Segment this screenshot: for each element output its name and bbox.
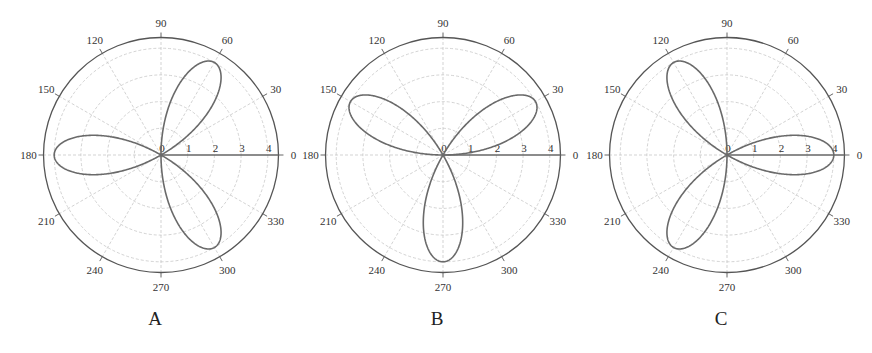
angle-tick <box>545 94 549 97</box>
angle-tick <box>263 94 267 97</box>
grid-spoke <box>59 96 161 155</box>
angle-label: 270 <box>435 281 452 293</box>
angle-label: 90 <box>438 17 450 29</box>
angle-label: 240 <box>653 264 670 276</box>
angle-tick <box>263 214 267 217</box>
angle-label: 210 <box>38 215 55 227</box>
grid-spoke <box>727 53 786 155</box>
grid-spoke <box>102 53 161 155</box>
radial-tick-label: 2 <box>213 142 219 154</box>
polar-figure: 0306090120150180210240270300330012340306… <box>0 0 872 353</box>
panel-label-b: B <box>417 308 457 330</box>
angle-tick <box>100 257 103 261</box>
angle-label: 270 <box>153 281 170 293</box>
grid-spoke <box>102 155 161 257</box>
polar-plot-a: 030609012015018021024027030033001234 <box>20 17 296 294</box>
angle-label: 60 <box>222 34 234 46</box>
angle-tick <box>502 257 505 261</box>
angle-label: 120 <box>87 34 104 46</box>
angle-tick <box>382 257 385 261</box>
angle-label: 300 <box>785 264 802 276</box>
grid-spoke <box>384 155 443 257</box>
grid-spoke <box>443 155 545 214</box>
angle-label: 120 <box>369 34 386 46</box>
radial-tick-label: 4 <box>548 142 554 154</box>
angle-label: 150 <box>38 83 55 95</box>
angle-label: 210 <box>604 215 621 227</box>
radial-tick-label: 3 <box>521 142 527 154</box>
angle-label: 0 <box>291 149 297 161</box>
angle-label: 0 <box>573 149 579 161</box>
angle-label: 300 <box>501 264 518 276</box>
angle-label: 120 <box>653 34 670 46</box>
angle-label: 30 <box>270 83 282 95</box>
angle-label: 240 <box>87 264 104 276</box>
angle-label: 180 <box>20 149 37 161</box>
angle-label: 150 <box>320 83 337 95</box>
angle-label: 0 <box>857 149 863 161</box>
grid-spoke <box>727 155 786 257</box>
angle-tick <box>220 257 223 261</box>
angle-label: 240 <box>369 264 386 276</box>
angle-label: 300 <box>219 264 236 276</box>
angle-label: 330 <box>833 215 850 227</box>
angle-tick <box>829 94 833 97</box>
radial-tick-label: 3 <box>805 142 811 154</box>
grid-spoke <box>443 155 502 257</box>
angle-label: 210 <box>320 215 337 227</box>
grid-spoke <box>727 155 829 214</box>
angle-label: 180 <box>302 149 319 161</box>
angle-tick <box>545 214 549 217</box>
angle-tick <box>55 94 59 97</box>
grid-spoke <box>341 155 443 214</box>
angle-tick <box>337 214 341 217</box>
angle-tick <box>786 49 789 53</box>
angle-tick <box>829 214 833 217</box>
radial-tick-label: 1 <box>186 142 192 154</box>
grid-spoke <box>59 155 161 214</box>
radial-tick-label: 4 <box>266 142 272 154</box>
angle-tick <box>621 94 625 97</box>
angle-label: 150 <box>604 83 621 95</box>
angle-label: 90 <box>156 17 168 29</box>
angle-tick <box>100 49 103 53</box>
polar-plot-c: 030609012015018021024027030033001234 <box>586 17 862 294</box>
panel-label-a: A <box>135 308 175 330</box>
angle-label: 180 <box>586 149 603 161</box>
radial-tick-label: 3 <box>239 142 245 154</box>
angle-tick <box>220 49 223 53</box>
angle-label: 30 <box>836 83 848 95</box>
angle-tick <box>621 214 625 217</box>
angle-tick <box>55 214 59 217</box>
angle-label: 330 <box>267 215 284 227</box>
angle-label: 60 <box>788 34 800 46</box>
angle-tick <box>666 257 669 261</box>
angle-tick <box>786 257 789 261</box>
angle-label: 30 <box>552 83 564 95</box>
radial-tick-label: 2 <box>779 142 785 154</box>
angle-label: 90 <box>722 17 734 29</box>
angle-tick <box>502 49 505 53</box>
angle-tick <box>382 49 385 53</box>
angle-label: 60 <box>504 34 516 46</box>
angle-label: 270 <box>719 281 736 293</box>
angle-tick <box>337 94 341 97</box>
panel-label-c: C <box>701 308 741 330</box>
angle-label: 330 <box>549 215 566 227</box>
polar-plot-b: 030609012015018021024027030033001234 <box>302 17 578 294</box>
angle-tick <box>666 49 669 53</box>
